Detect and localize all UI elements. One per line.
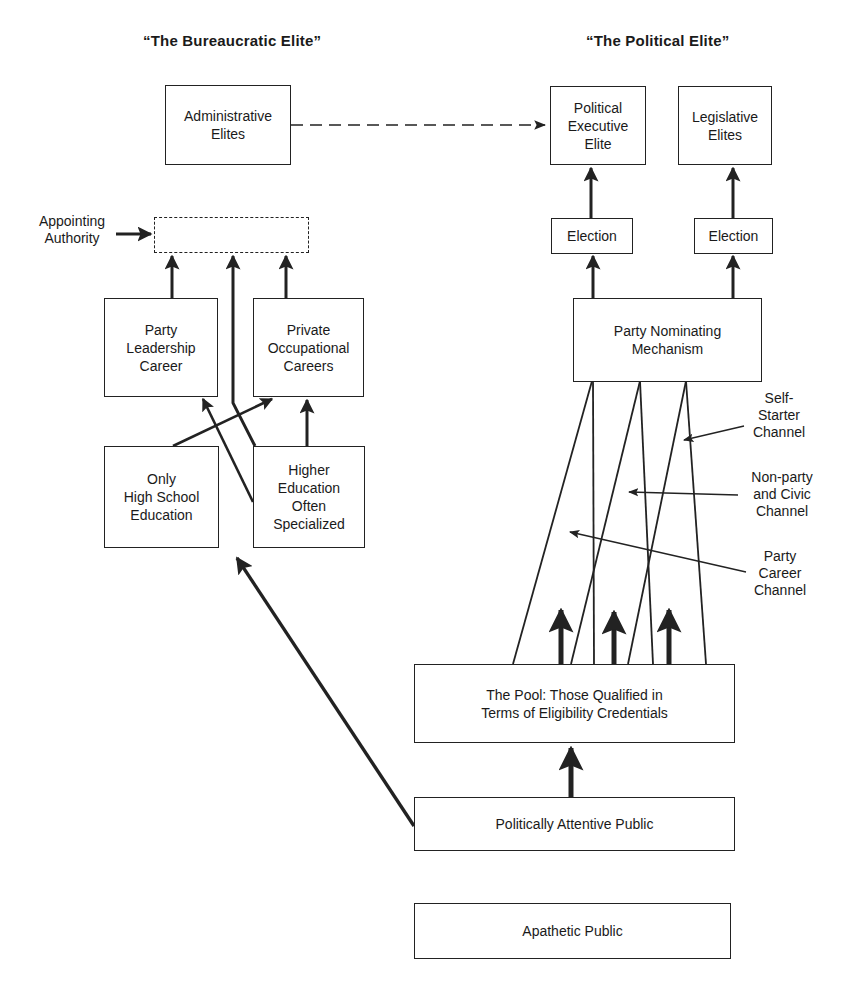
party-career-pointer <box>570 532 746 572</box>
higher-ed-to-appointing-arrow <box>233 256 255 446</box>
only-high-school-education-box: Only High School Education <box>104 446 219 548</box>
appointing-authority-label: Appointing Authority <box>30 213 114 247</box>
party-career-channel-label: Party Career Channel <box>744 548 816 599</box>
politically-attentive-public-box: Politically Attentive Public <box>414 797 735 851</box>
self-starter-pointer <box>684 426 744 440</box>
election-legislative-box: Election <box>694 218 773 254</box>
recruitment-channels <box>513 381 706 664</box>
higher-education-specialized-box: Higher Education Often Specialized <box>253 446 365 548</box>
the-pool-box: The Pool: Those Qualified in Terms of El… <box>414 664 735 743</box>
apathetic-public-box: Apathetic Public <box>414 903 731 959</box>
nonparty-civic-channel-label: Non-party and Civic Channel <box>740 469 824 520</box>
appointing-placeholder-box <box>154 217 309 253</box>
legislative-elites-box: Legislative Elites <box>678 86 772 165</box>
attentive-to-education-arrow <box>237 558 414 826</box>
administrative-elites-box: Administrative Elites <box>165 85 291 165</box>
party-leadership-career-box: Party Leadership Career <box>104 298 218 397</box>
election-executive-box: Election <box>551 218 633 254</box>
self-starter-channel-label: Self- Starter Channel <box>744 390 814 441</box>
private-occupational-careers-box: Private Occupational Careers <box>253 298 364 397</box>
party-nominating-mechanism-box: Party Nominating Mechanism <box>573 298 762 382</box>
political-executive-elite-box: Political Executive Elite <box>550 86 646 165</box>
